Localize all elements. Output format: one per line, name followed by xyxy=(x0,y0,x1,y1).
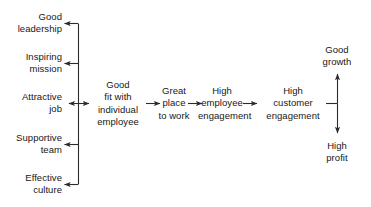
outcome-good-growth: Good growth xyxy=(305,44,369,69)
diagram-canvas: Good leadership Inspiring mission Attrac… xyxy=(0,0,371,207)
driver-supportive-team: Supportive team xyxy=(0,132,62,157)
chain-node-high-customer-engagement: High customer engagement xyxy=(260,85,326,122)
driver-inspiring-mission: Inspiring mission xyxy=(0,51,62,76)
chain-node-great-place-to-work: Great place to work xyxy=(158,85,190,122)
driver-good-leadership: Good leadership xyxy=(0,11,62,36)
outcome-high-profit: High profit xyxy=(305,140,369,165)
chain-node-good-fit: Good fit with individual employee xyxy=(92,79,144,129)
driver-effective-culture: Effective culture xyxy=(0,172,62,197)
driver-attractive-job: Attractive job xyxy=(0,91,62,116)
chain-node-high-employee-engagement: High employee engagement xyxy=(198,85,246,122)
